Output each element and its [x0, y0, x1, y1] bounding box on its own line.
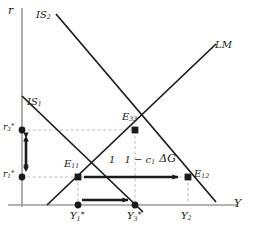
axis-label-r: r: [8, 5, 13, 16]
y-tick-label-r3-sup: *: [11, 122, 14, 130]
x-tick-label-Y2-sub: 2: [188, 214, 192, 221]
multiplier-denominator-sub: 1: [151, 158, 155, 165]
point-E33: [132, 127, 139, 134]
point-label-E12: E12: [194, 169, 209, 180]
curve-label-IS1-sub: 1: [38, 100, 42, 107]
delta-g-term: ΔG: [159, 152, 176, 165]
arrowhead-up: [23, 136, 29, 142]
curve-label-LM: LM: [215, 40, 232, 50]
x-tick-label-Y3: Y3*: [127, 211, 141, 222]
y-tick-label-r3: r3*: [3, 123, 14, 133]
point-label-E33: E33: [122, 112, 137, 123]
point-E12: [185, 174, 192, 181]
curve-label-IS2: IS2: [36, 10, 51, 21]
x-tick-label-Y1-sup: *: [81, 210, 85, 219]
x-tick-label-Y1-text: Y: [70, 210, 77, 221]
curve-label-IS1-text: IS: [27, 96, 38, 107]
point-label-E11-sub: 11: [71, 162, 79, 169]
curve-label-IS2-sub: 2: [47, 13, 51, 20]
arrowhead-down: [23, 167, 29, 173]
point-label-E11: E11: [64, 159, 79, 170]
tick-dot-r1: [19, 174, 26, 181]
curve-LM: [47, 44, 216, 205]
x-tick-label-Y3-sup: *: [138, 210, 142, 219]
x-tick-label-Y1: Y1*: [70, 211, 84, 222]
multiplier-denominator-text: 1 − c: [124, 154, 151, 165]
multiplier-denominator: 1 − c1: [122, 154, 157, 165]
x-tick-label-Y2: Y2: [181, 211, 192, 222]
x-tick-label-Y2-text: Y: [181, 210, 188, 221]
y-tick-label-r1: r1*: [3, 170, 14, 180]
x-tick-label-Y3-text: Y: [127, 210, 134, 221]
multiplier-numerator: 1: [107, 154, 117, 165]
point-label-E33-sub: 33: [129, 115, 137, 122]
tick-dot-Y1: [75, 202, 82, 209]
curve-label-IS1: IS1: [27, 97, 42, 108]
point-E11: [75, 174, 82, 181]
tick-dot-r3: [19, 127, 26, 134]
point-label-E12-sub: 12: [201, 172, 209, 179]
y-tick-label-r1-sup: *: [11, 169, 14, 177]
tick-dot-Y3: [132, 202, 139, 209]
is-lm-figure: r Y IS2 IS1 LM E33 E11 E12 r3* r1* Y1* Y…: [0, 0, 254, 234]
multiplier-annotation: 1 1 − c1 ΔG: [107, 150, 176, 166]
curve-label-IS2-text: IS: [36, 9, 47, 20]
multiplier-fraction: 1 1 − c1: [107, 150, 157, 166]
axis-label-Y: Y: [234, 198, 241, 209]
